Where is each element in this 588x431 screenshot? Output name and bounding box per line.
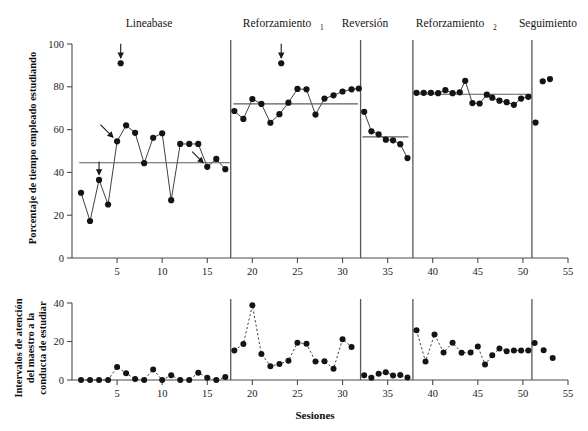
top-data-point	[462, 78, 468, 84]
bottom-x-tick-label: 5	[114, 388, 119, 399]
bottom-data-point	[186, 377, 192, 383]
bottom-y-tick-label: 40	[54, 298, 65, 309]
top-y-tick-label: 100	[48, 39, 64, 50]
bottom-data-point	[258, 351, 264, 357]
top-data-point	[413, 90, 419, 96]
bottom-data-point	[390, 372, 396, 378]
bottom-data-point	[96, 377, 102, 383]
bottom-data-point	[550, 355, 556, 361]
bottom-data-point	[312, 359, 318, 365]
bottom-y-tick-label: 0	[59, 375, 64, 386]
bottom-data-point	[441, 349, 447, 355]
annotation-arrow-head	[97, 170, 102, 175]
top-data-point	[132, 130, 138, 136]
chart-svg: Lineabase Reforzamiento 1 Reversión Refo…	[0, 0, 588, 431]
bottom-data-point	[294, 340, 300, 346]
top-data-point	[397, 141, 403, 147]
top-data-point	[294, 86, 300, 92]
top-data-point	[361, 109, 367, 115]
bottom-x-tick-label: 50	[518, 388, 529, 399]
bottom-data-point	[78, 377, 84, 383]
bottom-data-point	[331, 366, 337, 372]
phase-label-reversion: Reversión	[342, 17, 389, 29]
phase-label-group: Lineabase Reforzamiento 1 Reversión Refo…	[126, 17, 578, 32]
bottom-x-tick-label: 40	[427, 388, 438, 399]
bottom-panel-y-axis-title-line2: del maestro a la	[25, 312, 36, 383]
bottom-data-point	[168, 372, 174, 378]
bottom-data-point	[340, 336, 346, 342]
bottom-data-point	[397, 372, 403, 378]
bottom-data-point	[349, 344, 355, 350]
top-x-tick-label: 30	[337, 266, 348, 277]
bottom-data-point	[114, 364, 120, 370]
top-y-tick-label: 80	[54, 81, 65, 92]
top-data-point	[267, 120, 273, 126]
top-data-point	[518, 95, 524, 101]
top-series-line	[364, 112, 407, 158]
bottom-data-point	[213, 377, 219, 383]
top-x-tick-label: 40	[427, 266, 438, 277]
bottom-data-point	[231, 348, 237, 354]
bottom-data-point	[267, 363, 273, 369]
top-data-point	[114, 138, 120, 144]
top-data-point	[368, 128, 374, 134]
top-data-point	[449, 90, 455, 96]
bottom-x-tick-label: 35	[382, 388, 393, 399]
top-data-point	[240, 116, 246, 122]
top-x-tick-label: 50	[518, 266, 529, 277]
top-x-tick-label: 55	[563, 266, 574, 277]
top-data-point	[477, 100, 483, 106]
top-data-point	[87, 218, 93, 224]
top-data-point	[540, 78, 546, 84]
top-data-point	[231, 108, 237, 114]
top-data-point	[435, 90, 441, 96]
bottom-data-point	[322, 358, 328, 364]
top-data-point	[428, 90, 434, 96]
bottom-data-point	[303, 341, 309, 347]
top-y-tick-label: 20	[54, 210, 65, 221]
top-data-point	[390, 137, 396, 143]
bottom-data-point	[475, 344, 481, 350]
top-data-point	[276, 111, 282, 117]
bottom-data-point	[532, 340, 538, 346]
top-data-point	[532, 119, 538, 125]
top-data-point	[195, 141, 201, 147]
top-data-point	[330, 92, 336, 98]
top-data-point	[504, 99, 510, 105]
phase-label-reforzamiento-2-subscript: 2	[493, 23, 497, 32]
figure-container: Lineabase Reforzamiento 1 Reversión Refo…	[0, 0, 588, 431]
top-x-tick-label: 35	[382, 266, 393, 277]
bottom-data-point	[222, 374, 228, 380]
bottom-data-point	[123, 370, 129, 376]
top-data-point	[484, 92, 490, 98]
bottom-data-point	[511, 348, 517, 354]
top-data-point	[249, 96, 255, 102]
top-y-tick-label: 60	[54, 124, 65, 135]
top-data-point	[285, 100, 291, 106]
top-data-point	[168, 197, 174, 203]
top-data-point	[303, 86, 309, 92]
top-data-point	[123, 122, 129, 128]
bottom-data-point	[413, 327, 419, 333]
bottom-data-point	[177, 377, 183, 383]
top-data-point	[496, 98, 502, 104]
bottom-x-tick-label: 45	[473, 388, 484, 399]
top-data-point	[511, 102, 517, 108]
top-data-point	[489, 95, 495, 101]
top-data-point	[339, 88, 345, 94]
bottom-data-point	[361, 372, 367, 378]
bottom-data-point	[249, 302, 255, 308]
bottom-data-point	[383, 369, 389, 375]
top-x-tick-label: 45	[473, 266, 484, 277]
top-y-tick-label: 0	[59, 253, 64, 264]
phase-label-reforzamiento-1-subscript: 1	[320, 23, 324, 32]
top-series-line	[234, 89, 358, 123]
bottom-data-point	[489, 352, 495, 358]
annotation-arrow-head	[118, 53, 123, 58]
bottom-data-point	[541, 347, 547, 353]
bottom-data-point	[368, 375, 374, 381]
bottom-panel-y-axis-title-line3: conducta de estudiar	[37, 301, 48, 395]
bottom-x-tick-label: 25	[292, 388, 303, 399]
top-data-point	[312, 112, 318, 118]
bottom-data-point	[450, 340, 456, 346]
